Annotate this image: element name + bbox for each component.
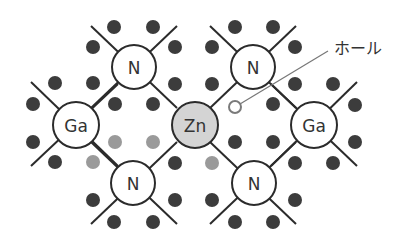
atom-n-bottom-left: N (111, 161, 155, 205)
electron-icon (205, 77, 219, 91)
atom-n-bottom-right: N (232, 161, 276, 205)
electron-icon (266, 135, 280, 149)
atom-label: Ga (302, 116, 326, 136)
atom-n-top-left: N (112, 45, 156, 89)
electron-icon (288, 77, 302, 91)
electron-icon (86, 193, 100, 207)
atom-label: N (128, 58, 141, 78)
atom-n-top-right: N (231, 45, 275, 89)
zno-ga-n-lattice-diagram: NNGaZnGaNN ホール (0, 0, 407, 240)
electron-icon (228, 20, 242, 34)
electron-icon (348, 98, 362, 112)
electron-icon (26, 97, 40, 111)
atom-label: N (127, 174, 140, 194)
electron-icon (288, 40, 302, 54)
atoms-layer: NNGaZnGaNN (53, 45, 337, 205)
electron-icon (228, 215, 242, 229)
electron-icon (107, 215, 121, 229)
electron-icon (146, 20, 160, 34)
electron-icon (168, 77, 182, 91)
electron-icon (48, 76, 62, 90)
electron-icon (48, 155, 62, 169)
electron-icon (168, 193, 182, 207)
electron-light-icon (86, 155, 100, 169)
atom-ga-left: Ga (53, 102, 99, 148)
electron-icon (326, 77, 340, 91)
electron-icon (228, 135, 242, 149)
electron-icon (86, 40, 100, 54)
atom-label: N (248, 174, 261, 194)
electron-icon (168, 156, 182, 170)
electron-icon (86, 76, 100, 90)
electron-icon (146, 97, 160, 111)
electron-icon (266, 97, 280, 111)
electron-icon (205, 40, 219, 54)
electron-icon (205, 193, 219, 207)
electron-icon (288, 156, 302, 170)
electron-light-icon (205, 156, 219, 170)
electron-icon (108, 97, 122, 111)
electron-icon (26, 135, 40, 149)
atom-ga-right: Ga (291, 102, 337, 148)
electron-icon (266, 215, 280, 229)
atom-label: N (247, 58, 260, 78)
electron-light-icon (146, 135, 160, 149)
electron-icon (288, 193, 302, 207)
electron-icon (168, 40, 182, 54)
atom-zn-center: Zn (172, 102, 218, 148)
hole-label: ホール (334, 39, 382, 58)
hole-icon (229, 101, 241, 113)
atom-label: Ga (64, 116, 88, 136)
electron-icon (107, 20, 121, 34)
atom-label: Zn (184, 116, 206, 136)
electron-icon (266, 20, 280, 34)
electron-icon (348, 135, 362, 149)
electron-icon (326, 156, 340, 170)
electron-icon (146, 215, 160, 229)
electron-light-icon (108, 135, 122, 149)
